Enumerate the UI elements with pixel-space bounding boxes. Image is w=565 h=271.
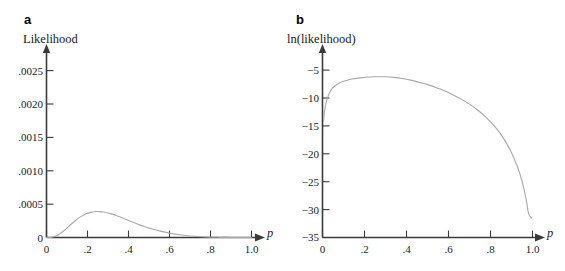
panel-b-x-axis-arrowhead bbox=[535, 234, 545, 242]
panel-a-xtick-04: .4 bbox=[124, 243, 133, 255]
panel-b-xtick-04: .4 bbox=[402, 243, 411, 255]
panel-a-ytick-0025: .0025 bbox=[18, 65, 43, 77]
panel-a-xtick-08: .8 bbox=[206, 243, 215, 255]
panel-a-x-tick-labels: 0 .2 .4 .6 .8 1.0 bbox=[44, 243, 259, 255]
panel-b-xtick-08: .8 bbox=[486, 243, 495, 255]
panel-b-ytick-neg10: −10 bbox=[302, 92, 320, 104]
panel-b-loglikelihood-curve bbox=[324, 77, 532, 218]
panel-a-plot: .0025 .0020 .0015 .0010 .0005 0 0 .2 .4 … bbox=[0, 0, 283, 271]
panel-a-y-axis-arrowhead bbox=[43, 44, 50, 53]
panel-b-xtick-0: 0 bbox=[320, 243, 326, 255]
panel-b-y-ticks bbox=[323, 70, 330, 210]
panel-b-ytick-neg15: −15 bbox=[302, 120, 320, 132]
panel-b-ytick-neg25: −25 bbox=[302, 176, 320, 188]
panel-a-ytick-0015: .0015 bbox=[18, 131, 43, 143]
panel-a-y-ticks bbox=[47, 71, 54, 205]
panel-b-ytick-neg30: −30 bbox=[302, 204, 320, 216]
panel-a-xtick-10: 1.0 bbox=[245, 243, 259, 255]
panel-a: a Likelihood p .0025 .0020 .0015 .0010 .… bbox=[0, 0, 283, 271]
panel-a-ytick-0005: .0005 bbox=[18, 198, 43, 210]
panel-a-x-ticks bbox=[47, 231, 252, 238]
panel-b-x-ticks bbox=[323, 231, 533, 238]
panel-b-y-axis-arrowhead bbox=[319, 44, 326, 53]
panel-b-ytick-neg20: −20 bbox=[302, 148, 320, 160]
panel-b-ytick-neg35: −35 bbox=[302, 231, 320, 243]
panel-a-ytick-0: 0 bbox=[38, 232, 44, 244]
panel-a-y-tick-labels: .0025 .0020 .0015 .0010 .0005 0 bbox=[18, 65, 43, 244]
panel-b-xtick-06: .6 bbox=[444, 243, 453, 255]
panel-b-plot: −5 −10 −15 −20 −25 −30 −35 0 .2 .4 .6 .8… bbox=[283, 0, 565, 271]
panel-a-xtick-02: .2 bbox=[83, 243, 91, 255]
panel-a-ytick-0020: .0020 bbox=[18, 98, 43, 110]
panel-a-x-axis-arrowhead bbox=[255, 234, 265, 242]
panel-b-ytick-neg5: −5 bbox=[307, 64, 319, 76]
panel-b-x-tick-labels: 0 .2 .4 .6 .8 1.0 bbox=[320, 243, 540, 255]
panel-a-xtick-06: .6 bbox=[165, 243, 174, 255]
panel-b-y-tick-labels: −5 −10 −15 −20 −25 −30 −35 bbox=[302, 64, 320, 243]
panel-a-xtick-0: 0 bbox=[44, 243, 50, 255]
panel-b-xtick-02: .2 bbox=[360, 243, 368, 255]
panel-b-xtick-10: 1.0 bbox=[526, 243, 540, 255]
panel-a-ytick-0010: .0010 bbox=[18, 165, 43, 177]
panel-b: b ln(likelihood) p −5 −10 −15 −20 −25 −3… bbox=[283, 0, 565, 271]
panel-a-likelihood-curve bbox=[47, 212, 252, 238]
